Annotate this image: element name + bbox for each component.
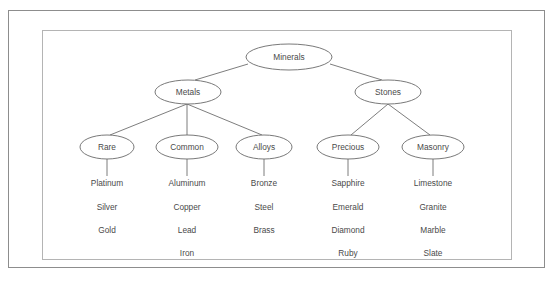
node-common[interactable]: Common — [156, 135, 218, 159]
leaf-item: Ruby — [338, 248, 358, 258]
leaf-item: Bronze — [251, 178, 278, 188]
node-masonry-label: Masonry — [417, 142, 450, 152]
leaf-column-alloys: Bronze Steel Brass — [251, 178, 278, 235]
edge-metals-rare — [110, 104, 187, 135]
leaf-item: Emerald — [333, 202, 364, 212]
edge-group-metals — [110, 104, 262, 135]
edge-stones-masonry — [388, 104, 430, 135]
node-stones[interactable]: Stones — [355, 80, 421, 104]
leaf-column-rare: Platinum Silver Gold — [91, 178, 123, 235]
edge-group-stones — [351, 104, 430, 135]
edge-metals-alloys — [187, 104, 262, 135]
leaf-item: Granite — [419, 202, 447, 212]
leaf-item: Marble — [420, 225, 446, 235]
node-minerals[interactable]: Minerals — [246, 44, 332, 70]
leaf-item: Limestone — [414, 178, 453, 188]
edge-minerals-metals — [195, 64, 248, 80]
leaf-column-masonry: Limestone Granite Marble Slate — [414, 178, 453, 258]
node-minerals-label: Minerals — [273, 52, 304, 62]
leaf-item: Sapphire — [331, 178, 365, 188]
node-alloys-label: Alloys — [253, 142, 275, 152]
leaf-column-precious: Sapphire Emerald Diamond Ruby — [331, 178, 365, 258]
node-metals[interactable]: Metals — [155, 80, 221, 104]
leaf-item: Iron — [180, 248, 195, 258]
edge-stones-precious — [351, 104, 388, 135]
node-rare-label: Rare — [98, 142, 116, 152]
leaf-item: Copper — [173, 202, 200, 212]
node-precious[interactable]: Precious — [317, 135, 379, 159]
leaf-item: Lead — [178, 225, 197, 235]
leaf-item: Silver — [97, 202, 118, 212]
leaf-item: Platinum — [91, 178, 123, 188]
leaf-item: Aluminum — [169, 178, 206, 188]
leaf-item: Slate — [424, 248, 443, 258]
node-stones-label: Stones — [375, 87, 401, 97]
node-alloys[interactable]: Alloys — [236, 135, 292, 159]
leaf-item: Gold — [98, 225, 116, 235]
edge-group-leaf-stubs — [107, 159, 433, 176]
leaf-item: Diamond — [331, 225, 365, 235]
node-masonry[interactable]: Masonry — [402, 135, 464, 159]
leaf-item: Steel — [255, 202, 274, 212]
leaf-column-common: Aluminum Copper Lead Iron — [169, 178, 206, 258]
node-rare[interactable]: Rare — [80, 135, 134, 159]
edge-minerals-stones — [330, 64, 382, 80]
leaf-item: Brass — [253, 225, 274, 235]
diagram-page: Minerals Metals Stones Rare Common — [0, 0, 558, 287]
tree-diagram: Minerals Metals Stones Rare Common — [0, 0, 558, 287]
node-metals-label: Metals — [176, 87, 200, 97]
node-precious-label: Precious — [332, 142, 364, 152]
node-common-label: Common — [170, 142, 204, 152]
